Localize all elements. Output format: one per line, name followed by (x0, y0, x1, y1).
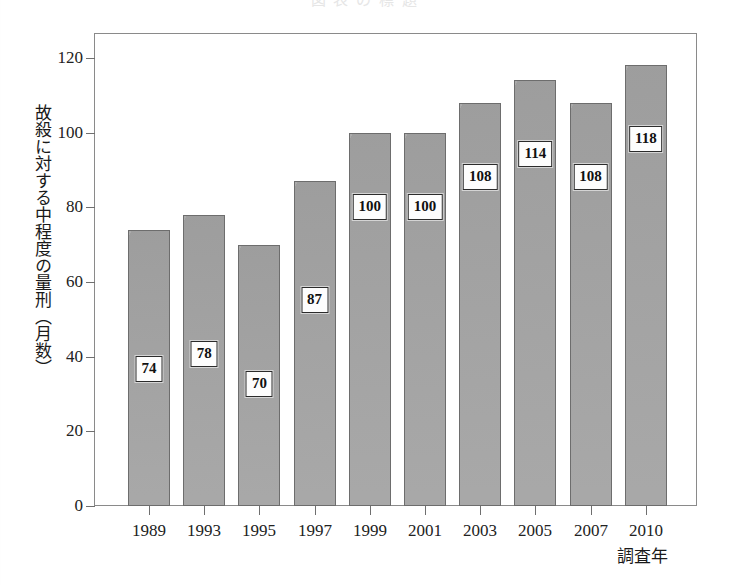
y-axis: 020406080100120 (0, 0, 729, 585)
x-tick-label-1997: 1997 (285, 522, 345, 539)
y-tick-mark-100 (86, 133, 95, 134)
x-tick-mark-1995 (259, 506, 260, 515)
y-tick-label-0: 0 (75, 497, 84, 514)
y-tick-mark-40 (86, 357, 95, 358)
x-tick-mark-1993 (204, 506, 205, 515)
x-tick-mark-2010 (646, 506, 647, 515)
y-axis-title: 故殺に対する中程度の量刑（月数） (19, 104, 51, 434)
y-tick-mark-0 (86, 506, 95, 507)
y-tick-label-120: 120 (58, 49, 84, 66)
x-tick-label-2005: 2005 (505, 522, 565, 539)
y-tick-mark-80 (86, 207, 95, 208)
x-tick-mark-2001 (425, 506, 426, 515)
x-tick-label-1999: 1999 (340, 522, 400, 539)
x-tick-mark-1999 (370, 506, 371, 515)
y-tick-label-60: 60 (66, 273, 83, 290)
x-tick-label-1995: 1995 (229, 522, 289, 539)
x-tick-mark-2005 (535, 506, 536, 515)
x-tick-mark-2007 (591, 506, 592, 515)
y-tick-mark-20 (86, 431, 95, 432)
x-axis-title: 調査年 (617, 548, 668, 565)
y-tick-label-40: 40 (66, 348, 83, 365)
x-tick-label-2010: 2010 (616, 522, 676, 539)
x-tick-label-1993: 1993 (174, 522, 234, 539)
x-tick-label-2001: 2001 (395, 522, 455, 539)
x-tick-mark-2003 (480, 506, 481, 515)
x-tick-label-1989: 1989 (119, 522, 179, 539)
x-tick-label-2003: 2003 (450, 522, 510, 539)
y-tick-mark-120 (86, 58, 95, 59)
x-tick-mark-1997 (315, 506, 316, 515)
x-tick-label-2007: 2007 (561, 522, 621, 539)
y-tick-mark-60 (86, 282, 95, 283)
x-tick-mark-1989 (149, 506, 150, 515)
y-tick-label-20: 20 (66, 422, 83, 439)
y-tick-label-80: 80 (66, 198, 83, 215)
y-tick-label-100: 100 (58, 124, 84, 141)
